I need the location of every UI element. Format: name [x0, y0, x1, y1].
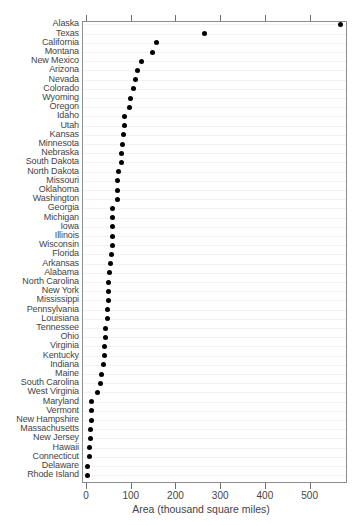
gridline: [83, 89, 346, 90]
data-point: [88, 436, 93, 441]
x-axis-tick: [131, 483, 132, 489]
gridline: [83, 365, 346, 366]
gridline: [83, 43, 346, 44]
data-point: [106, 298, 111, 303]
data-point: [88, 427, 93, 432]
data-point: [102, 344, 107, 349]
data-point: [131, 86, 136, 91]
gridline: [83, 420, 346, 421]
gridline: [83, 245, 346, 246]
data-point: [122, 114, 127, 119]
data-point: [135, 68, 140, 73]
gridline: [83, 356, 346, 357]
data-point: [103, 335, 108, 340]
gridline: [83, 328, 346, 329]
x-axis-title-text: Area (thousand square miles): [90, 503, 270, 515]
gridline: [83, 70, 346, 71]
data-point: [87, 445, 92, 450]
data-point: [133, 77, 138, 82]
data-point: [154, 40, 159, 45]
gridline: [83, 273, 346, 274]
data-point: [119, 160, 124, 165]
data-point: [127, 105, 132, 110]
gridline: [83, 475, 346, 476]
gridline: [83, 34, 346, 35]
data-point: [139, 59, 144, 64]
data-point: [120, 142, 125, 147]
data-point: [110, 206, 115, 211]
gridline: [83, 80, 346, 81]
data-point: [115, 178, 120, 183]
gridline: [83, 107, 346, 108]
data-point: [89, 408, 94, 413]
gridline: [83, 218, 346, 219]
data-point: [115, 197, 120, 202]
x-axis-tick: [310, 483, 311, 489]
gridline: [83, 310, 346, 311]
gridline: [83, 52, 346, 53]
data-point: [95, 390, 100, 395]
gridline: [83, 264, 346, 265]
data-point: [121, 132, 126, 137]
data-point: [202, 31, 207, 36]
gridline: [83, 291, 346, 292]
data-point: [106, 289, 111, 294]
gridline: [83, 98, 346, 99]
data-point: [119, 151, 124, 156]
gridline: [83, 319, 346, 320]
x-axis-tick: [175, 483, 176, 489]
data-point: [115, 188, 120, 193]
gridline: [83, 383, 346, 384]
x-axis-tick-label: 100: [122, 490, 139, 501]
gridline: [83, 181, 346, 182]
gridline: [83, 282, 346, 283]
data-point: [103, 326, 108, 331]
data-point: [110, 215, 115, 220]
gridline: [83, 199, 346, 200]
x-axis-tick: [86, 483, 87, 489]
gridline: [83, 438, 346, 439]
data-point: [101, 362, 106, 367]
data-point: [102, 353, 107, 358]
gridline: [83, 346, 346, 347]
data-point: [110, 234, 115, 239]
data-point: [85, 473, 90, 478]
x-axis-tick-label: 200: [167, 490, 184, 501]
gridline: [83, 208, 346, 209]
gridline: [83, 374, 346, 375]
x-axis-title: Area (thousand square miles): [0, 503, 360, 515]
gridline: [83, 61, 346, 62]
data-point: [85, 464, 90, 469]
dot-plot-chart: AlaskaTexasCaliforniaMontanaNew MexicoAr…: [0, 0, 360, 525]
x-axis-tick-label: 500: [301, 490, 318, 501]
gridline: [83, 337, 346, 338]
data-point: [105, 307, 110, 312]
data-point: [150, 50, 155, 55]
gridline: [83, 411, 346, 412]
gridline: [83, 392, 346, 393]
data-point: [89, 418, 94, 423]
gridline: [83, 172, 346, 173]
data-point: [106, 280, 111, 285]
data-point: [110, 224, 115, 229]
category-label: Rhode Island: [27, 470, 79, 479]
gridline: [83, 448, 346, 449]
gridline: [83, 190, 346, 191]
data-point: [99, 372, 104, 377]
gridline: [83, 466, 346, 467]
data-point: [87, 454, 92, 459]
gridline: [83, 227, 346, 228]
gridline: [83, 300, 346, 301]
plot-panel: [82, 21, 347, 483]
data-point: [108, 261, 113, 266]
gridline: [83, 24, 346, 25]
x-axis-tick: [265, 483, 266, 489]
x-axis-tick-label: 0: [83, 490, 89, 501]
data-point: [98, 381, 103, 386]
gridline: [83, 429, 346, 430]
data-point: [338, 22, 343, 27]
x-axis-tick: [220, 483, 221, 489]
data-point: [128, 96, 133, 101]
x-axis-tick-label: 300: [212, 490, 229, 501]
data-point: [109, 252, 114, 257]
